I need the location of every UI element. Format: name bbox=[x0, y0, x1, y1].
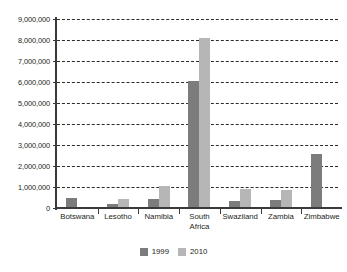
legend-swatch-icon bbox=[178, 248, 186, 256]
y-axis-label: 7,000,000 bbox=[18, 57, 50, 66]
bar-2010-swaziland bbox=[240, 189, 251, 208]
legend-label: 2010 bbox=[190, 247, 207, 256]
chart-legend: 19992010 bbox=[0, 247, 347, 256]
y-axis-label: 8,000,000 bbox=[18, 36, 50, 45]
plot-area: 01,000,0002,000,0003,000,0004,000,0005,0… bbox=[57, 19, 342, 208]
y-axis-label: 5,000,000 bbox=[18, 99, 50, 108]
y-axis-label: 9,000,000 bbox=[18, 15, 50, 24]
bar-group bbox=[138, 19, 179, 208]
bar-group bbox=[220, 19, 261, 208]
bar-1999-zimbabwe bbox=[311, 154, 322, 208]
bar-group-bars bbox=[138, 19, 179, 208]
bar-1999-south-africa bbox=[188, 81, 199, 208]
bar-group-bars bbox=[301, 19, 342, 208]
y-axis-label: 3,000,000 bbox=[18, 141, 50, 150]
legend-item[interactable]: 2010 bbox=[178, 247, 207, 256]
bar-group-bars bbox=[57, 19, 98, 208]
bar-group-bars bbox=[261, 19, 302, 208]
legend-label: 1999 bbox=[152, 247, 169, 256]
bar-chart: 01,000,0002,000,0003,000,0004,000,0005,0… bbox=[0, 0, 347, 272]
y-axis-line bbox=[55, 17, 57, 210]
bar-group-bars bbox=[179, 19, 220, 208]
bar-group bbox=[179, 19, 220, 208]
bar-group-bars bbox=[98, 19, 139, 208]
y-axis-label: 0 bbox=[46, 204, 50, 213]
bar-2010-south-africa bbox=[199, 38, 210, 208]
legend-item[interactable]: 1999 bbox=[140, 247, 169, 256]
y-axis-label: 1,000,000 bbox=[18, 183, 50, 192]
bar-group-bars bbox=[220, 19, 261, 208]
y-axis-label: 4,000,000 bbox=[18, 120, 50, 129]
bar-group bbox=[261, 19, 302, 208]
bar-group bbox=[57, 19, 98, 208]
bar-2010-zambia bbox=[281, 190, 292, 208]
bar-group bbox=[301, 19, 342, 208]
bar-group bbox=[98, 19, 139, 208]
x-axis-label: Zimbabwe bbox=[295, 212, 347, 222]
y-axis-label: 2,000,000 bbox=[18, 162, 50, 171]
bar-2010-namibia bbox=[159, 186, 170, 208]
legend-swatch-icon bbox=[140, 248, 148, 256]
y-axis-label: 6,000,000 bbox=[18, 78, 50, 87]
